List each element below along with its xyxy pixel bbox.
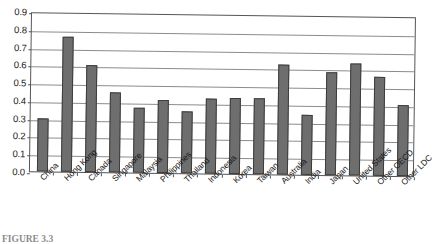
y-tick-label: 0.9 bbox=[14, 7, 27, 17]
figure-caption: FIGURE 3.3 bbox=[2, 233, 422, 244]
y-tick-label: 0.8 bbox=[14, 25, 27, 35]
bar bbox=[325, 72, 337, 175]
y-tick-mark bbox=[27, 138, 30, 139]
y-tick-mark bbox=[28, 67, 31, 68]
figure-caption-text: FIGURE 3.3 bbox=[2, 233, 422, 244]
y-tick-label: 0.0 bbox=[12, 167, 25, 177]
bar bbox=[36, 118, 48, 171]
y-tick-label: 0.3 bbox=[13, 114, 26, 124]
y-axis: 0.00.10.20.30.40.50.60.70.80.9 bbox=[0, 2, 30, 178]
y-tick-label: 0.4 bbox=[13, 96, 26, 106]
bar-chart: 0.00.10.20.30.40.50.60.70.80.9 ChinaHong… bbox=[0, 2, 422, 240]
bar bbox=[349, 63, 361, 175]
y-tick-mark bbox=[28, 84, 31, 85]
y-tick-label: 0.2 bbox=[13, 131, 26, 141]
y-tick-mark bbox=[29, 13, 32, 14]
bar bbox=[253, 98, 265, 175]
y-tick-mark bbox=[28, 120, 31, 121]
y-tick-mark bbox=[29, 31, 32, 32]
y-tick-label: 0.1 bbox=[12, 149, 25, 159]
bar bbox=[61, 37, 74, 172]
y-tick-mark bbox=[28, 102, 31, 103]
y-tick-mark bbox=[27, 155, 30, 156]
bar bbox=[277, 64, 289, 174]
x-axis: ChinaHong KongCanadaSingaporeMalaysiaPhi… bbox=[28, 175, 420, 238]
y-tick-label: 0.6 bbox=[14, 60, 27, 70]
y-tick-label: 0.5 bbox=[13, 78, 26, 88]
y-tick-mark bbox=[29, 49, 32, 50]
y-tick-label: 0.7 bbox=[14, 43, 27, 53]
